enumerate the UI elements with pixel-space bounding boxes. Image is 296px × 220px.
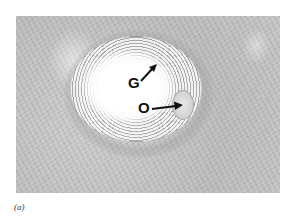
- arrow-o-icon: [150, 100, 184, 114]
- figure-caption: (a): [14, 202, 25, 212]
- label-o: O: [138, 100, 150, 115]
- arrow-g-icon: [138, 62, 160, 84]
